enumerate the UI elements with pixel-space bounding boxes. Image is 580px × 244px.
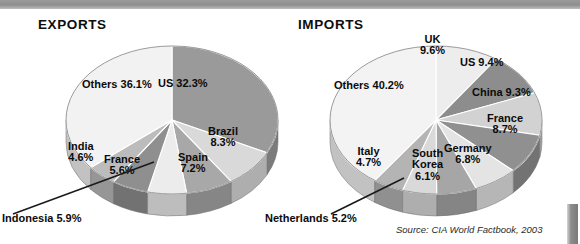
leader-line-indonesia: [13, 162, 154, 214]
leader-line-netherlands: [331, 178, 404, 214]
slice-label-imports-others: Others 40.2%: [334, 80, 404, 91]
slice-label-imports-italy: Italy 4.7%: [356, 146, 381, 169]
right-edge-tab-decoration: [567, 204, 578, 244]
slice-label-imports-china: China 9.3%: [472, 87, 531, 98]
chart-page: EXPORTS IMPORTS US 32.3% Brazil 8.3% Spa…: [0, 0, 580, 244]
slice-label-imports-uk: UK 9.6%: [420, 34, 445, 57]
slice-label-imports-germany: Germany 6.8%: [444, 143, 492, 166]
callout-label-exports-indonesia: Indonesia 5.9%: [2, 212, 81, 224]
callout-label-imports-netherlands: Netherlands 5.2%: [265, 212, 357, 224]
source-note: Source: CIA World Factbook, 2003: [396, 224, 542, 235]
slice-label-imports-france: France 8.7%: [487, 113, 523, 136]
slice-label-imports-us: US 9.4%: [460, 57, 503, 68]
slice-label-imports-south-korea: South Korea 6.1%: [412, 148, 443, 182]
